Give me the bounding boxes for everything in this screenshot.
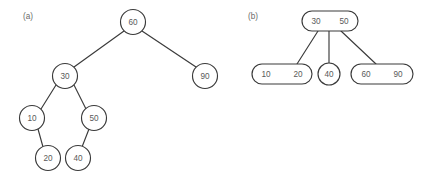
panel-a-caption: (a) [23, 12, 33, 21]
node-a-20: 20 [36, 146, 61, 171]
node-b-left: 10 20 [252, 64, 312, 84]
node-a-50: 50 [82, 106, 107, 131]
node-value: 20 [43, 154, 53, 163]
node-rounded-rect [302, 11, 358, 31]
node-value: 40 [73, 154, 83, 163]
edge-10-20 [38, 129, 43, 147]
node-key-first: 60 [361, 70, 371, 79]
node-value: 60 [128, 18, 138, 27]
panel-b-caption: (b) [248, 12, 258, 21]
node-key-first: 10 [261, 70, 271, 79]
edge-30-10 [41, 85, 56, 109]
node-a-60: 60 [121, 10, 146, 35]
edge-50-40 [82, 129, 89, 147]
node-a-10: 10 [20, 106, 45, 131]
node-value: 10 [27, 114, 37, 123]
node-b-mid: 40 [318, 63, 340, 85]
panel-a: (a) 60 30 90 [20, 10, 218, 171]
node-key-second: 50 [339, 17, 349, 26]
node-value: 90 [200, 72, 210, 81]
tree-diagram-figure: (a) 60 30 90 [0, 0, 429, 178]
panel-a-nodes: 60 30 90 10 50 [20, 10, 218, 171]
panel-b-nodes: 30 50 10 20 40 60 90 [252, 11, 413, 85]
edge-root-left [297, 31, 318, 64]
edge-30-50 [74, 85, 86, 109]
edge-root-right [341, 31, 376, 64]
node-b-root: 30 50 [302, 11, 358, 31]
node-key-second: 20 [293, 70, 303, 79]
node-key-first: 40 [324, 70, 334, 79]
figure-container: (a) 60 30 90 [0, 0, 429, 178]
panel-b-edges [297, 31, 376, 64]
panel-a-edges [38, 31, 196, 147]
node-rounded-rect [351, 64, 413, 84]
edge-60-30 [74, 31, 124, 67]
edge-60-90 [142, 31, 196, 67]
node-a-30: 30 [53, 64, 78, 89]
node-a-40: 40 [66, 146, 91, 171]
node-b-right: 60 90 [351, 64, 413, 84]
node-value: 30 [60, 72, 70, 81]
node-key-second: 90 [393, 70, 403, 79]
panel-b: (b) 30 50 10 20 40 [248, 11, 413, 85]
node-a-90: 90 [193, 64, 218, 89]
node-value: 50 [89, 114, 99, 123]
node-key-first: 30 [311, 17, 321, 26]
